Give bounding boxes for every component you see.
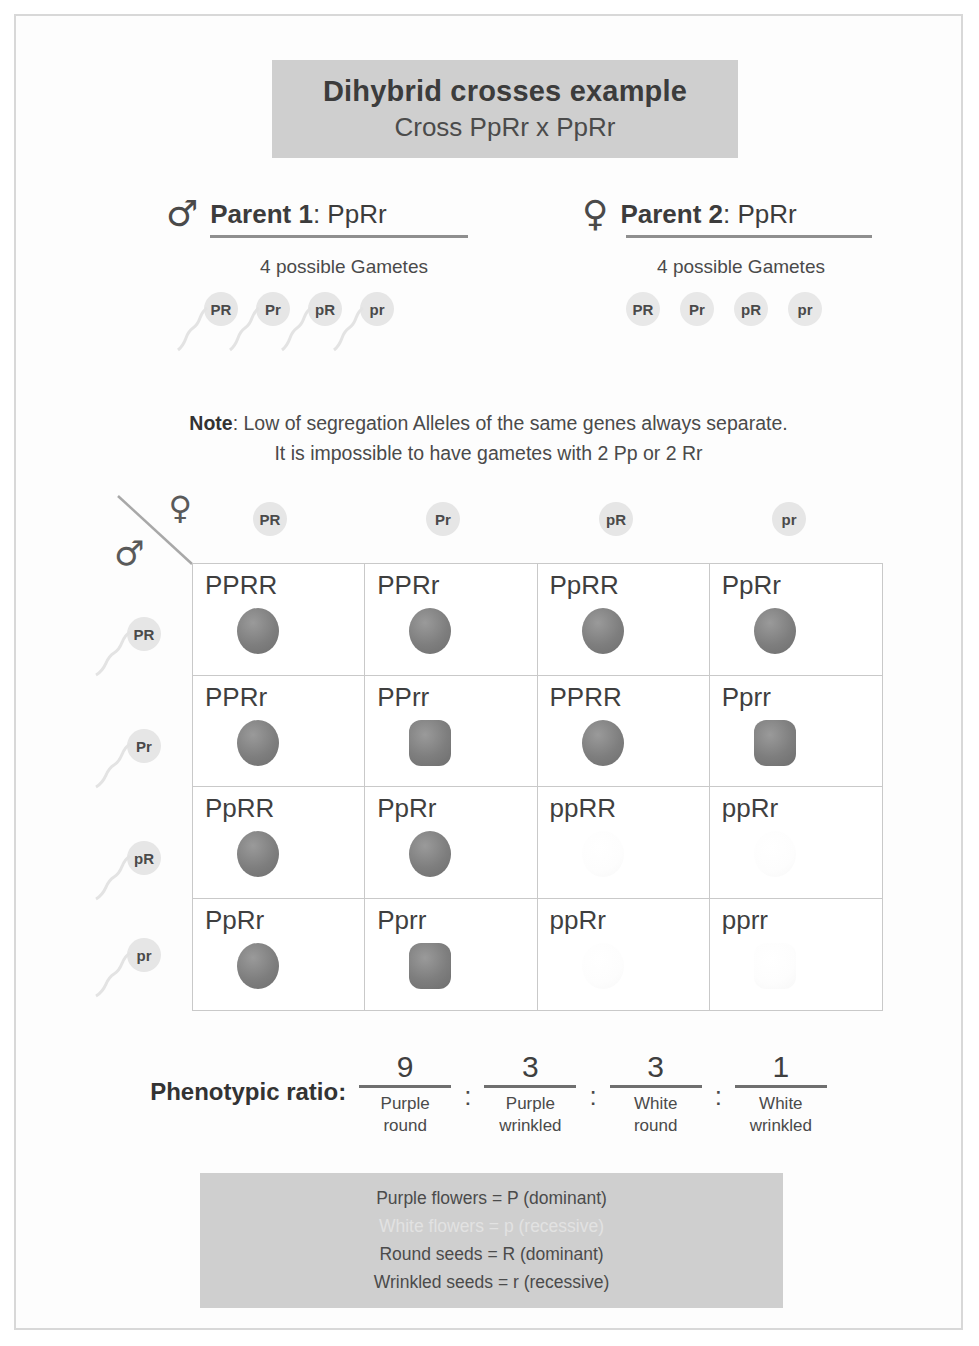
seed-icon-purple-round xyxy=(582,608,624,654)
punnett-cell: ppRR xyxy=(538,787,710,899)
col-head-label: pR xyxy=(606,511,626,528)
gamete-egg-1: PR xyxy=(626,292,660,326)
row-head-label: pR xyxy=(134,850,154,867)
row-head-label: pr xyxy=(137,947,152,964)
gamete-egg-2: Pr xyxy=(680,292,714,326)
ratio-item-3: 3 Whiteround xyxy=(610,1051,702,1137)
seed-icon-purple-round xyxy=(237,720,279,766)
punnett-cell: PPRr xyxy=(365,564,537,676)
parent2-underline xyxy=(626,235,872,238)
punnett-square: PPRRPPRrPpRRPpRrPPRrPPrrPPRRPprrPpRRPpRr… xyxy=(192,563,883,1011)
punnett-cell-genotype: PPRr xyxy=(377,572,536,598)
parent2-label-name: Parent 2 xyxy=(620,199,723,229)
punnett-cell: PPrr xyxy=(365,676,537,788)
note-text: Note: Low of segregation Alleles of the … xyxy=(16,408,961,468)
gamete-sperm-pr-3: pR xyxy=(308,292,342,326)
parent2-label-genotype: : PpRr xyxy=(723,199,797,229)
seed-icon-purple-wrinkled xyxy=(409,943,451,989)
punnett-cell-genotype: PPRR xyxy=(205,572,364,598)
punnett-col-head-4: pr xyxy=(772,502,806,536)
punnett-cell-genotype: PPRr xyxy=(205,684,364,710)
parent1-gamete-count: 4 possible Gametes xyxy=(166,256,496,278)
parent1-label-genotype: : PpRr xyxy=(313,199,387,229)
seed-icon-white-round xyxy=(582,831,624,877)
legend-box: Purple flowers = P (dominant) White flow… xyxy=(200,1173,783,1308)
punnett-cell-genotype: ppRr xyxy=(722,795,882,821)
punnett-row-head-2: Pr xyxy=(127,729,161,763)
ratio-desc: Whiteround xyxy=(634,1093,677,1137)
male-symbol-icon: ♂ xyxy=(166,196,198,232)
punnett-row-head-4: pr xyxy=(127,938,161,972)
ratio-separator-1: : xyxy=(464,1051,471,1112)
gamete-egg-4: pr xyxy=(788,292,822,326)
row-head-label: PR xyxy=(134,626,155,643)
gamete-sperm-pr-2: Pr xyxy=(256,292,290,326)
ratio-desc: Purpleround xyxy=(381,1093,430,1137)
punnett-col-head-3: pR xyxy=(599,502,633,536)
ratio-value: 9 xyxy=(397,1051,414,1083)
parent1-underline xyxy=(210,235,468,238)
punnett-cell: PpRR xyxy=(193,787,365,899)
seed-icon-white-round xyxy=(754,831,796,877)
legend-line-purple-flowers: Purple flowers = P (dominant) xyxy=(376,1188,607,1209)
punnett-cell-genotype: ppRr xyxy=(550,907,709,933)
title-banner: Dihybrid crosses example Cross PpRr x Pp… xyxy=(272,60,738,158)
legend-line-wrinkled-seeds: Wrinkled seeds = r (recessive) xyxy=(374,1272,610,1293)
sperm-tail-icon xyxy=(174,306,208,352)
page-title: Dihybrid crosses example xyxy=(323,75,687,108)
female-symbol-icon: ♀ xyxy=(582,196,608,232)
punnett-cell-genotype: Pprr xyxy=(722,684,882,710)
parent2-gamete-row: PR Pr pR pr xyxy=(582,292,882,326)
seed-icon-purple-round xyxy=(409,831,451,877)
punnett-cell: ppRr xyxy=(538,899,710,1011)
col-head-label: pr xyxy=(782,511,797,528)
phenotypic-ratio-row: Phenotypic ratio: 9 Purpleround : 3 Purp… xyxy=(16,1051,961,1137)
gamete-label: pR xyxy=(741,301,761,318)
punnett-cell: ppRr xyxy=(710,787,882,899)
ratio-desc-line2: round xyxy=(634,1116,677,1135)
parent1-gamete-row: PR Pr pR pr xyxy=(166,292,496,326)
seed-icon-purple-round xyxy=(237,608,279,654)
ratio-desc: Whitewrinkled xyxy=(750,1093,812,1137)
seed-icon-purple-round xyxy=(582,720,624,766)
punnett-cell-genotype: PPRR xyxy=(550,684,709,710)
punnett-cell: PpRr xyxy=(193,899,365,1011)
seed-icon-purple-round xyxy=(754,608,796,654)
sperm-tail-icon xyxy=(93,853,131,901)
gamete-egg-3: pR xyxy=(734,292,768,326)
seed-icon-purple-round xyxy=(409,608,451,654)
sperm-tail-icon xyxy=(93,741,131,789)
ratio-desc-line2: wrinkled xyxy=(750,1116,812,1135)
punnett-cell: Pprr xyxy=(710,676,882,788)
sperm-tail-icon xyxy=(93,629,131,677)
punnett-cell-genotype: PpRr xyxy=(377,795,536,821)
ratio-desc-line1: Purple xyxy=(506,1094,555,1113)
punnett-row-head-3: pR xyxy=(127,841,161,875)
sperm-tail-icon xyxy=(93,950,131,998)
parent1-label: Parent 1: PpRr xyxy=(210,199,386,230)
gamete-label: Pr xyxy=(265,301,281,318)
punnett-cell: PPRR xyxy=(538,676,710,788)
punnett-cell-genotype: ppRR xyxy=(550,795,709,821)
punnett-cell-genotype: PpRR xyxy=(550,572,709,598)
gamete-label: PR xyxy=(633,301,654,318)
punnett-cell: PpRr xyxy=(710,564,882,676)
ratio-desc-line1: White xyxy=(759,1094,802,1113)
punnett-cell-genotype: pprr xyxy=(722,907,882,933)
parent1-block: ♂ Parent 1: PpRr 4 possible Gametes PR P… xyxy=(166,196,496,326)
gamete-sperm-pr-1: PR xyxy=(204,292,238,326)
note-line-1-text: : Low of segregation Alleles of the same… xyxy=(233,412,788,434)
punnett-col-head-1: PR xyxy=(253,502,287,536)
row-head-label: Pr xyxy=(136,738,152,755)
parent2-block: ♀ Parent 2: PpRr 4 possible Gametes PR P… xyxy=(582,196,882,326)
ratio-item-4: 1 Whitewrinkled xyxy=(735,1051,827,1137)
ratio-bar xyxy=(359,1085,451,1088)
legend-line-round-seeds: Round seeds = R (dominant) xyxy=(379,1244,603,1265)
punnett-cell: PpRR xyxy=(538,564,710,676)
ratio-bar xyxy=(484,1085,576,1088)
ratio-desc-line2: round xyxy=(383,1116,426,1135)
seed-icon-purple-wrinkled xyxy=(409,720,451,766)
punnett-cell: PPRR xyxy=(193,564,365,676)
gamete-label: Pr xyxy=(689,301,705,318)
ratio-separator-3: : xyxy=(715,1051,722,1112)
